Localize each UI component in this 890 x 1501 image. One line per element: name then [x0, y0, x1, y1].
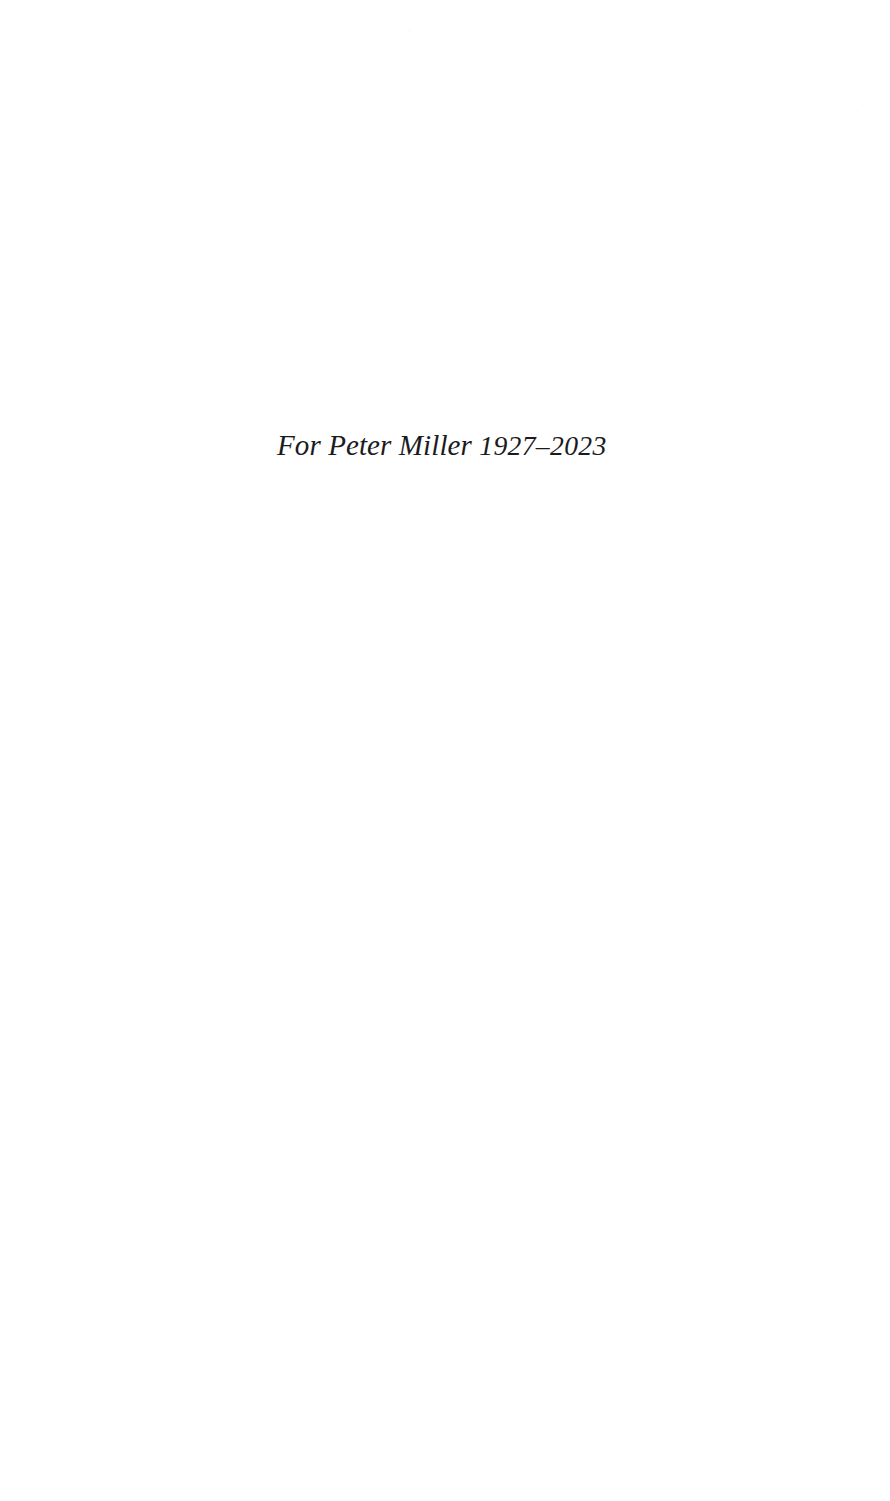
dedication-page: For Peter Miller 1927–2023 — [0, 0, 890, 1501]
dedication-block: For Peter Miller 1927–2023 — [277, 428, 797, 463]
dedication-prefix: For — [277, 429, 328, 461]
paper-texture — [0, 0, 890, 1501]
dedication-text: For Peter Miller 1927–2023 — [277, 428, 797, 463]
dedication-life-dates: 1927–2023 — [479, 430, 606, 461]
dedication-honoree-name: Peter Miller — [328, 429, 472, 461]
